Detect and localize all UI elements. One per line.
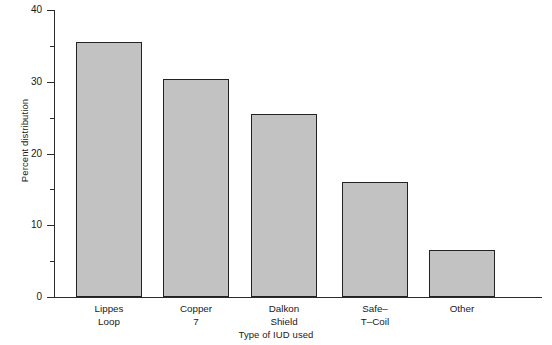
x-tick-label: Lippes Loop	[59, 303, 159, 328]
x-axis-line	[54, 297, 542, 298]
y-tick-major	[47, 154, 55, 155]
x-tick-label: Copper 7	[146, 303, 246, 328]
bar[interactable]	[76, 42, 142, 297]
y-tick-label: 20	[2, 149, 42, 159]
y-tick-minor	[50, 118, 55, 119]
y-tick-label: 0	[2, 292, 42, 302]
x-axis-title: Type of IUD used	[0, 329, 552, 340]
y-tick-minor	[50, 261, 55, 262]
bar[interactable]	[251, 114, 317, 297]
y-tick-label: 40	[2, 5, 42, 15]
y-tick-label: 10	[2, 220, 42, 230]
bars-group	[0, 0, 552, 345]
y-tick-major	[47, 10, 55, 11]
y-tick-minor	[50, 189, 55, 190]
x-tick-label: Safe– T–Coil	[325, 303, 425, 328]
x-tick-label: Dalkon Shield	[234, 303, 334, 328]
y-tick-label: 30	[2, 77, 42, 87]
bar[interactable]	[163, 79, 229, 297]
x-tick-label: Other	[412, 303, 512, 316]
y-tick-major	[47, 297, 55, 298]
bar[interactable]	[342, 182, 408, 297]
bar[interactable]	[429, 250, 495, 297]
y-tick-major	[47, 82, 55, 83]
y-tick-major	[47, 225, 55, 226]
bar-chart: Percent distribution 010203040 Lippes Lo…	[0, 0, 552, 345]
y-tick-minor	[50, 46, 55, 47]
